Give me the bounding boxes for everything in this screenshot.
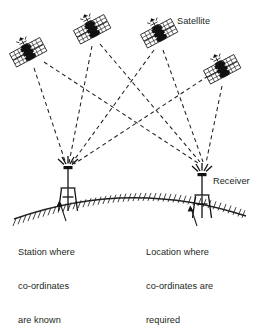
satellite-icon-4 [199, 46, 241, 84]
label-satellite: Satellite [177, 16, 210, 27]
satellite-icon-1 [5, 29, 47, 67]
signal-path-group [34, 44, 222, 164]
satellite-icon-3 [136, 10, 178, 48]
signal-path-sat3-to-station [72, 50, 154, 163]
label-location-caption: Location where co-ordinates are required [146, 224, 213, 329]
signal-path-sat1-to-station [34, 68, 66, 164]
signal-path-sat4-to-rover [206, 86, 222, 163]
label-station-line-1: Station where [18, 247, 75, 258]
signal-path-sat3-to-rover [163, 50, 203, 162]
signal-path-sat2-to-station [69, 46, 92, 163]
satellite-icon-2 [69, 6, 111, 44]
label-station-caption: Station where co-ordinates are known [18, 224, 75, 329]
label-location-line-2: co-ordinates are [146, 281, 213, 292]
signal-path-sat1-to-rover [44, 62, 198, 163]
label-receiver: Receiver [213, 176, 250, 187]
earth-surface [13, 193, 246, 226]
label-location-line-1: Location where [146, 247, 213, 258]
rover-receiver-tower [192, 163, 212, 218]
label-station-line-2: co-ordinates [18, 281, 75, 292]
label-location-line-3: required [146, 315, 213, 326]
label-station-line-3: are known [18, 315, 75, 326]
